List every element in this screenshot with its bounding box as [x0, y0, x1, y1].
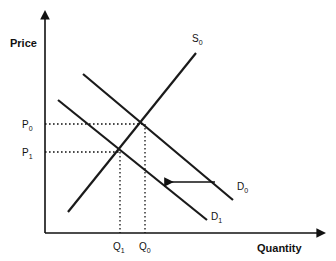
tick-label-p0-subscript: 0: [29, 125, 33, 132]
tick-label-q1-subscript: 1: [121, 247, 125, 254]
curve-label-d0: D0: [237, 181, 248, 194]
tick-label-p0: P0: [22, 119, 33, 132]
tick-label-q0: Q0: [139, 241, 151, 254]
tick-label-p1: P1: [22, 147, 33, 160]
curve-label-d0-subscript: 0: [244, 187, 248, 194]
x-axis-title: Quantity: [257, 242, 302, 254]
tick-label-q0-subscript: 0: [147, 247, 151, 254]
curve-label-d0-text: D: [237, 181, 244, 192]
supply-demand-chart: Price Quantity P0 P1 Q1 Q0 S0 D0 D1: [0, 0, 336, 261]
tick-label-q1: Q1: [113, 241, 125, 254]
curve-label-d1-subscript: 1: [218, 217, 222, 224]
y-axis-title: Price: [10, 37, 37, 49]
tick-label-p1-subscript: 1: [29, 153, 33, 160]
chart-canvas: Price Quantity P0 P1 Q1 Q0 S0 D0 D1: [0, 0, 336, 261]
curve-label-d1: D1: [211, 211, 222, 224]
curve-label-d1-text: D: [211, 211, 218, 222]
curve-label-s0: S0: [192, 33, 203, 46]
curve-label-s0-subscript: 0: [199, 39, 203, 46]
